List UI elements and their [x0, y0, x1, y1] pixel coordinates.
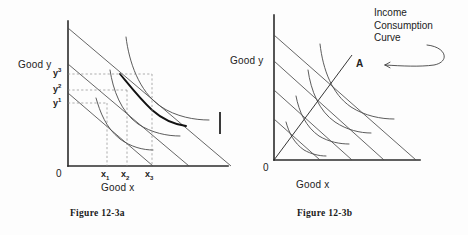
scan-artifact-mark — [219, 112, 221, 134]
panel-b-indifference-curves — [286, 44, 394, 156]
indifference-curve-3 — [126, 37, 209, 120]
panel-b-y-axis-title: Good y — [230, 56, 263, 66]
panel-a-x-tick-1: x1 — [101, 170, 109, 179]
panel-b-x-axis-title: Good x — [296, 180, 329, 190]
panel-a-axes — [68, 21, 228, 166]
figure-page: Good y Good x 0 y3 y2 y1 x1 x2 x3 Figure… — [0, 0, 468, 235]
panel-a-y-axis-title: Good y — [18, 60, 51, 70]
panel-a-y-tick-1: y1 — [53, 99, 61, 108]
panel-b-caption: Figure 12-3b — [297, 208, 352, 218]
panel-b-annotation-arrow — [385, 45, 444, 68]
panel-a-x-axis-title: Good x — [101, 183, 134, 193]
panel-a-guide-lines — [68, 74, 152, 166]
income-consumption-curve-annotation: Income Consumption Curve — [374, 7, 433, 45]
panel-b-income-consumption-curve — [274, 55, 352, 160]
annotation-line-1: Income — [374, 7, 433, 20]
figure-panel-a: Good y Good x 0 y3 y2 y1 x1 x2 x3 Figure… — [0, 0, 234, 235]
panel-b-point-a-label: A — [356, 59, 363, 69]
arrowhead-upper — [385, 62, 390, 65]
panel-a-x-tick-2: x2 — [121, 170, 129, 179]
panel-b-origin-label: 0 — [263, 163, 269, 173]
annotation-line-2: Consumption — [374, 20, 433, 33]
panel-a-y-tick-3: y3 — [53, 69, 61, 78]
budget-line-3 — [274, 61, 384, 160]
panel-a-caption: Figure 12-3a — [70, 208, 125, 218]
panel-a-origin-label: 0 — [56, 169, 62, 179]
panel-a-graphic — [0, 0, 234, 235]
figure-panel-b: Good y Good x 0 A Income Consumption Cur… — [234, 0, 468, 235]
annotation-line-3: Curve — [374, 32, 433, 45]
indifference-curve-1 — [286, 122, 326, 156]
panel-a-y-tick-2: y2 — [53, 85, 61, 94]
panel-a-x-tick-3: x3 — [145, 170, 153, 179]
